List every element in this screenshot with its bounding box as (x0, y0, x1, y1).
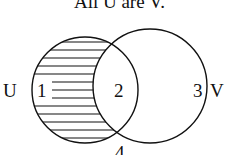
region-label-3: 3 (193, 80, 203, 101)
region-label-2: 2 (114, 80, 124, 101)
region-label-1: 1 (37, 80, 47, 101)
region-label-4: 4 (115, 142, 125, 155)
circle-v (93, 29, 207, 143)
set-label-u: U (3, 80, 17, 101)
set-label-v: V (210, 80, 224, 101)
venn-diagram: U V 1 2 3 4 (0, 0, 239, 155)
